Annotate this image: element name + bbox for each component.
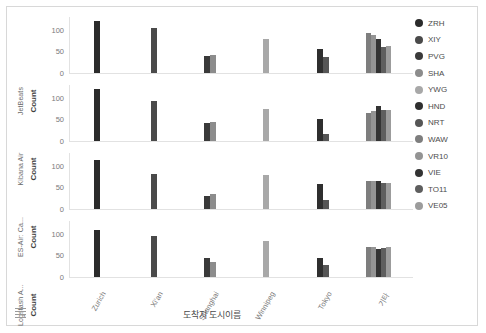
y-tick-label: 50	[56, 251, 67, 260]
bar[interactable]	[151, 28, 157, 73]
legend-label: YWG	[428, 85, 447, 94]
legend-label: WAW	[428, 135, 448, 144]
legend-item[interactable]: VIE	[415, 164, 479, 181]
bar[interactable]	[151, 236, 157, 277]
y-tick-label: 0	[60, 273, 67, 282]
bar-group[interactable]	[94, 153, 100, 209]
legend-item[interactable]: SHA	[415, 65, 479, 82]
bar-group[interactable]	[204, 153, 216, 209]
bar-group[interactable]	[94, 17, 100, 73]
legend-item[interactable]: YWG	[415, 81, 479, 98]
legend-label: ZRH	[428, 19, 444, 28]
bar[interactable]	[323, 200, 329, 209]
legend-item[interactable]: TO11	[415, 181, 479, 198]
legend-color-dot	[415, 36, 423, 44]
x-baseline	[69, 141, 413, 142]
x-baseline	[69, 73, 413, 74]
y-tick-group: 050100	[7, 85, 67, 141]
legend-color-dot	[415, 202, 423, 210]
facet-row: Logstash A...Count050100	[7, 221, 479, 277]
bar[interactable]	[263, 241, 269, 277]
y-tick-label: 0	[60, 205, 67, 214]
legend[interactable]: ZRHXIYPVGSHAYWGHNDNRTWAWVR10VIETO11VE05	[415, 15, 479, 214]
facet-row: ES-Air: Ca...Count050100	[7, 153, 479, 209]
bar[interactable]	[263, 109, 269, 141]
bar[interactable]	[386, 110, 391, 141]
x-baseline	[69, 209, 413, 210]
bar-group[interactable]	[366, 85, 391, 141]
bar[interactable]	[210, 194, 216, 210]
legend-color-dot	[415, 69, 423, 77]
legend-label: HND	[428, 102, 445, 111]
x-tick-label: 기타	[375, 290, 392, 308]
bar-group[interactable]	[204, 17, 216, 73]
bar-group[interactable]	[263, 17, 269, 73]
bar-group[interactable]	[263, 85, 269, 141]
bar-group[interactable]	[151, 221, 157, 277]
bar[interactable]	[210, 262, 216, 278]
plot-area: JetBeatsCount050100Kibana AirCount050100…	[7, 7, 479, 325]
legend-color-dot	[415, 135, 423, 143]
bar[interactable]	[323, 57, 329, 73]
bar[interactable]	[94, 230, 100, 277]
bar-group[interactable]	[366, 221, 391, 277]
legend-label: NRT	[428, 118, 444, 127]
bar[interactable]	[323, 265, 329, 277]
bar-group[interactable]	[204, 221, 216, 277]
x-axis-title: 도착지 도시이름	[7, 308, 417, 321]
bar-group[interactable]	[94, 85, 100, 141]
bar[interactable]	[263, 39, 269, 73]
y-axis-line	[69, 17, 70, 73]
bar[interactable]	[386, 183, 391, 209]
legend-item[interactable]: PVG	[415, 48, 479, 65]
legend-color-dot	[415, 152, 423, 160]
legend-item[interactable]: VE05	[415, 198, 479, 215]
bar-group[interactable]	[317, 153, 329, 209]
y-tick-group: 050100	[7, 153, 67, 209]
bar-group[interactable]	[317, 221, 329, 277]
bar-group[interactable]	[366, 153, 391, 209]
chart-screenshot: JetBeatsCount050100Kibana AirCount050100…	[0, 0, 486, 333]
bar-group[interactable]	[366, 17, 391, 73]
bar[interactable]	[263, 175, 269, 209]
chart-panel: JetBeatsCount050100Kibana AirCount050100…	[6, 6, 478, 326]
legend-item[interactable]: VR10	[415, 148, 479, 165]
y-axis-line	[69, 85, 70, 141]
bar[interactable]	[151, 174, 157, 209]
bar[interactable]	[210, 122, 216, 141]
bar-group[interactable]	[151, 17, 157, 73]
legend-label: VIE	[428, 168, 441, 177]
legend-label: VE05	[428, 201, 448, 210]
bar-group[interactable]	[204, 85, 216, 141]
x-baseline	[69, 277, 413, 278]
legend-item[interactable]: HND	[415, 98, 479, 115]
legend-item[interactable]: ZRH	[415, 15, 479, 32]
bar[interactable]	[94, 21, 100, 73]
y-tick-group: 050100	[7, 17, 67, 73]
bar[interactable]	[94, 160, 100, 209]
bar[interactable]	[323, 134, 329, 141]
y-tick-label: 100	[51, 161, 67, 170]
bar-group[interactable]	[263, 221, 269, 277]
bar-group[interactable]	[317, 17, 329, 73]
bar[interactable]	[210, 55, 216, 73]
bar-group[interactable]	[94, 221, 100, 277]
legend-label: PVG	[428, 52, 445, 61]
legend-label: TO11	[428, 185, 447, 194]
bar-group[interactable]	[151, 153, 157, 209]
y-tick-label: 100	[51, 93, 67, 102]
y-tick-label: 50	[56, 115, 67, 124]
legend-item[interactable]: XIY	[415, 32, 479, 49]
legend-item[interactable]: WAW	[415, 131, 479, 148]
bar-group[interactable]	[151, 85, 157, 141]
legend-color-dot	[415, 102, 423, 110]
facet-row: JetBeatsCount050100	[7, 17, 479, 73]
bar-group[interactable]	[317, 85, 329, 141]
legend-item[interactable]: NRT	[415, 115, 479, 132]
legend-list-icon[interactable]	[15, 308, 26, 319]
bar[interactable]	[386, 247, 391, 277]
bar[interactable]	[151, 101, 157, 141]
bar[interactable]	[386, 46, 391, 73]
bar-group[interactable]	[263, 153, 269, 209]
bar[interactable]	[94, 89, 100, 141]
